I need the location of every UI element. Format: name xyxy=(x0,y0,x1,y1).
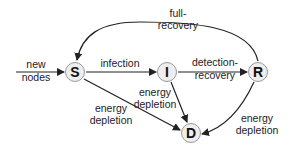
node-i-label: I xyxy=(165,64,169,80)
label-energy-depletion-s: energy depletion xyxy=(86,103,136,126)
label-energy-depletion-r: energy depletion xyxy=(232,113,282,136)
label-detection-recovery: detection- recovery xyxy=(187,57,243,81)
node-d-label: D xyxy=(186,125,196,141)
label-infection: infection xyxy=(95,58,145,69)
node-d: D xyxy=(181,123,201,143)
node-r-label: R xyxy=(253,64,263,80)
node-i: I xyxy=(157,62,177,82)
node-s: S xyxy=(65,62,85,82)
node-s-label: S xyxy=(70,64,79,80)
label-energy-depletion-i: energy depletion xyxy=(130,87,180,110)
label-new-nodes: new nodes xyxy=(18,59,54,83)
node-r: R xyxy=(248,62,268,82)
label-full-recovery: full- recovery xyxy=(153,8,203,31)
